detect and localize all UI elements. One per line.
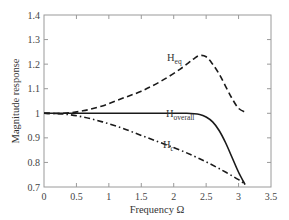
curve-labels: HeqHoverallHc (163, 52, 194, 153)
y-axis-label: Magnitude response (10, 58, 21, 143)
y-tick-label: 1.1 (28, 83, 41, 94)
y-tick-label: 1.4 (28, 10, 41, 21)
x-tick-label: 2.5 (200, 191, 213, 202)
x-tick-label: 3.5 (265, 191, 278, 202)
label-h-eq: Heq (167, 52, 182, 66)
y-tick-label: 0.8 (28, 157, 41, 168)
magnitude-response-chart: 00.511.522.533.5 0.70.80.911.11.21.31.4 … (0, 0, 289, 220)
plot-frame (44, 15, 271, 187)
x-axis-ticks: 00.511.522.533.5 (42, 15, 278, 202)
y-tick-label: 0.7 (28, 182, 41, 193)
x-tick-label: 1.5 (135, 191, 148, 202)
y-tick-label: 1 (35, 108, 40, 119)
label-h-c: Hc (163, 139, 175, 153)
label-h-overall: Hoverall (166, 108, 194, 122)
x-tick-label: 3 (236, 191, 241, 202)
y-tick-label: 0.9 (28, 132, 41, 143)
curves (44, 55, 245, 184)
curve-h-eq (44, 55, 245, 113)
plot-border (44, 15, 271, 187)
y-tick-label: 1.3 (28, 34, 41, 45)
x-tick-label: 2 (171, 191, 176, 202)
x-tick-label: 0 (42, 191, 47, 202)
curve-h-overall (44, 113, 245, 184)
x-tick-label: 0.5 (70, 191, 83, 202)
y-tick-label: 1.2 (28, 59, 41, 70)
x-tick-label: 1 (106, 191, 111, 202)
x-axis-label: Frequency Ω (130, 204, 185, 215)
